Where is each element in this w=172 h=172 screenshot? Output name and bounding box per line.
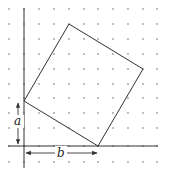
grid-dot — [97, 127, 99, 129]
grid-dot — [38, 38, 40, 40]
grid-dot — [53, 112, 55, 114]
grid-dot — [142, 53, 144, 55]
grid-dot — [142, 83, 144, 85]
grid-dot — [127, 23, 129, 25]
grid-dot — [112, 68, 114, 70]
grid-dot — [156, 161, 158, 163]
grid-dot — [112, 53, 114, 55]
grid-dot — [142, 161, 144, 163]
dot-grid — [8, 8, 158, 163]
grid-dot — [53, 97, 55, 99]
grid-dot — [8, 23, 10, 25]
grid-dot — [8, 38, 10, 40]
grid-dot — [127, 68, 129, 70]
grid-dot — [53, 8, 55, 10]
grid-dot — [156, 97, 158, 99]
label-b: b — [57, 146, 65, 160]
grid-dot — [53, 161, 55, 163]
grid-dot — [142, 127, 144, 129]
grid-dot — [53, 127, 55, 129]
grid-dot — [97, 97, 99, 99]
grid-dot — [112, 8, 114, 10]
grid-dot — [112, 38, 114, 40]
grid-dot — [53, 68, 55, 70]
grid-dot — [83, 97, 85, 99]
grid-dot — [83, 161, 85, 163]
grid-dot — [142, 23, 144, 25]
grid-dot — [97, 23, 99, 25]
grid-dot — [156, 38, 158, 40]
grid-dot — [68, 38, 70, 40]
grid-dot — [83, 112, 85, 114]
label-a: a — [14, 114, 21, 128]
grid-dot — [8, 112, 10, 114]
grid-dot — [127, 97, 129, 99]
grid-dot — [8, 83, 10, 85]
grid-dot — [8, 97, 10, 99]
grid-dot — [112, 161, 114, 163]
grid-dot — [38, 23, 40, 25]
grid-dot — [53, 53, 55, 55]
grid-dot — [8, 127, 10, 129]
grid-dot — [112, 23, 114, 25]
grid-dot — [97, 68, 99, 70]
grid-dot — [142, 112, 144, 114]
grid-dot — [156, 83, 158, 85]
grid-dot — [156, 53, 158, 55]
grid-dot — [38, 112, 40, 114]
grid-dot — [8, 8, 10, 10]
grid-dot — [156, 68, 158, 70]
grid-dot — [156, 23, 158, 25]
grid-dot — [112, 83, 114, 85]
grid-dot — [97, 38, 99, 40]
grid-dot — [83, 53, 85, 55]
grid-dot — [68, 68, 70, 70]
grid-dot — [127, 53, 129, 55]
grid-dot — [142, 38, 144, 40]
grid-dot — [38, 53, 40, 55]
grid-dot — [142, 8, 144, 10]
grid-dot — [38, 68, 40, 70]
grid-dot — [68, 8, 70, 10]
grid-dot — [97, 83, 99, 85]
grid-dot — [127, 8, 129, 10]
grid-dot — [127, 38, 129, 40]
grid-dot — [142, 97, 144, 99]
grid-dot — [156, 112, 158, 114]
grid-dot — [97, 8, 99, 10]
grid-dot — [127, 83, 129, 85]
grid-dot — [68, 83, 70, 85]
grid-dot — [112, 112, 114, 114]
grid-dot — [38, 8, 40, 10]
grid-dot — [8, 68, 10, 70]
grid-dot — [83, 83, 85, 85]
grid-dot — [53, 38, 55, 40]
grid-dot — [53, 83, 55, 85]
grid-dot — [68, 97, 70, 99]
grid-dot — [8, 53, 10, 55]
grid-dot — [8, 161, 10, 163]
grid-dot — [83, 68, 85, 70]
diagram-canvas: a b — [0, 0, 172, 172]
grid-dot — [38, 161, 40, 163]
grid-dot — [156, 8, 158, 10]
grid-dot — [127, 127, 129, 129]
grid-dot — [97, 53, 99, 55]
grid-dot — [68, 53, 70, 55]
grid-dot — [112, 127, 114, 129]
grid-dot — [38, 83, 40, 85]
grid-dot — [68, 112, 70, 114]
grid-dot — [53, 23, 55, 25]
grid-dot — [83, 38, 85, 40]
grid-dot — [83, 127, 85, 129]
grid-dot — [97, 112, 99, 114]
grid-dot — [127, 112, 129, 114]
grid-dot — [68, 161, 70, 163]
grid-dot — [83, 23, 85, 25]
grid-dot — [97, 161, 99, 163]
grid-dot — [156, 127, 158, 129]
grid-dot — [38, 127, 40, 129]
grid-dot — [112, 97, 114, 99]
grid-dot — [127, 161, 129, 163]
grid-dot — [83, 8, 85, 10]
